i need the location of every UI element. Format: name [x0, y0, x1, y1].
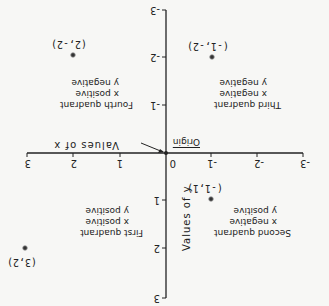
quadrant-x-sign: x negative — [214, 88, 281, 99]
y-tick-1: 1 — [154, 195, 160, 206]
quadrant-y-sign: y negative — [214, 77, 281, 88]
point-neg1-1 — [209, 197, 214, 202]
quadrant-name: Third quadrant — [214, 99, 281, 110]
origin-dot — [164, 151, 168, 155]
first-quadrant-label: First quadrant x positive y positive — [80, 205, 143, 238]
x-tick-3: 3 — [25, 158, 31, 169]
y-tick-neg3: -3 — [150, 5, 160, 16]
x-tick-neg1: -1 — [207, 158, 217, 169]
x-axis-title: Values of x — [53, 140, 119, 151]
x-tick-neg2: -2 — [254, 158, 264, 169]
quadrant-x-sign: x negative — [214, 216, 291, 227]
third-quadrant-label: Third quadrant x negative y negative — [214, 77, 281, 110]
quadrant-name: Second quadrant — [214, 227, 291, 238]
second-quadrant-label: Second quadrant x negative y positive — [214, 205, 291, 238]
y-tick-neg1: -1 — [150, 100, 160, 111]
x-tick-neg3: -3 — [300, 158, 310, 169]
y-tick-3: 3 — [154, 293, 160, 304]
y-tick-neg2: -2 — [150, 52, 160, 63]
point-neg1-neg2 — [210, 55, 215, 60]
x-tick-2: 2 — [71, 158, 77, 169]
quadrant-x-sign: x positive — [80, 216, 143, 227]
quadrant-name: Fourth quadrant — [60, 99, 133, 110]
point-2-neg2 — [71, 53, 76, 58]
point-label-3-2: (3,2) — [7, 257, 37, 268]
point-3-2 — [23, 246, 28, 251]
y-axis-title: Values of y — [181, 185, 192, 251]
fourth-quadrant-label: Fourth quadrant x positive y negative — [60, 77, 133, 110]
origin-label: Origin — [173, 136, 200, 147]
y-tick-2: 2 — [154, 243, 160, 254]
coordinate-diagram: -3 -2 -1 0 1 2 3 3 2 1 -1 -2 -3 Values o… — [0, 0, 329, 306]
x-tick-1: 1 — [117, 158, 123, 169]
zero-label: 0 — [170, 158, 176, 169]
quadrant-x-sign: x positive — [60, 88, 133, 99]
axes-graphic — [0, 0, 329, 306]
quadrant-y-sign: y negative — [60, 77, 133, 88]
point-label-neg1-1: (-1,1) — [187, 183, 223, 194]
quadrant-name: First quadrant — [80, 227, 143, 238]
quadrant-y-sign: y positive — [214, 205, 291, 216]
point-label-2-neg2: (2,-2) — [51, 39, 87, 50]
point-label-neg1-neg2: (-1,-2) — [187, 41, 229, 52]
quadrant-y-sign: y positive — [80, 205, 143, 216]
